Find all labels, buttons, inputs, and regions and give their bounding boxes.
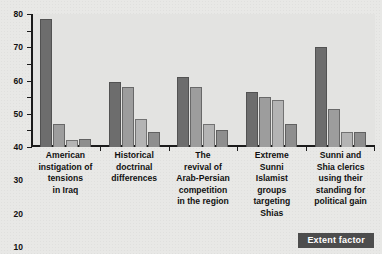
bar [315,47,327,147]
bar [135,119,147,147]
bar [341,132,353,147]
bar-group [31,14,100,147]
category-label-5: Sunni and Shia clerics using their stand… [306,150,375,216]
y-tick-label: 50 [14,110,23,119]
bar-group [306,14,375,147]
y-tick-label: 40 [14,143,23,152]
bar [66,140,78,147]
plot-area: 01020304050607080 [31,14,375,147]
category-label-3: The revival of Arab-Persian competition … [169,150,238,216]
y-tick-label: 60 [14,76,23,85]
bar [259,97,271,147]
category-label-4: Extreme Sunni Islamist groups targeting … [237,150,306,216]
bar [272,100,284,147]
category-label-1: American instigation of tensions in Iraq [31,150,100,216]
bar [109,82,121,147]
legend-extent-factor: Extent factor [298,233,374,248]
bar [190,87,202,147]
bar-group [237,14,306,147]
bar [246,92,258,147]
bar [79,139,91,147]
y-tick-label: 80 [14,10,23,19]
bar [40,19,52,147]
y-tick-label: 70 [14,43,23,52]
bar [328,109,340,147]
y-tick-label: 30 [14,176,23,185]
y-tick-mark: 0 [27,147,32,148]
bar [53,124,65,147]
bar [285,124,297,147]
x-axis-category-labels: American instigation of tensions in Iraq… [31,150,375,216]
bar-group [100,14,169,147]
bar [203,124,215,147]
bar-group [169,14,238,147]
bar [177,77,189,147]
y-tick-label: 20 [14,209,23,218]
bar [354,132,366,147]
bar [122,87,134,147]
caption-strip [0,243,260,254]
bar [148,132,160,147]
category-label-2: Historical doctrinal differences [100,150,169,216]
bars-layer [31,14,375,147]
chart-page: 01020304050607080 American instigation o… [0,0,382,254]
bar [216,130,228,147]
